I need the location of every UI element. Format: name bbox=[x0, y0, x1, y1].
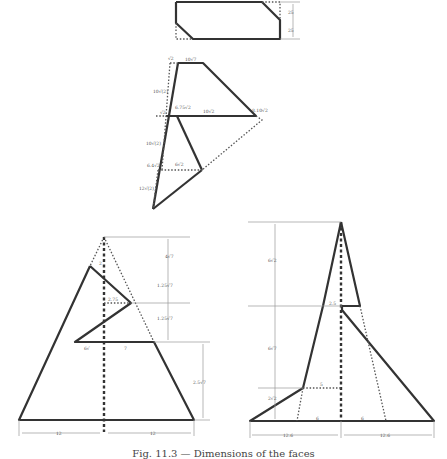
mid-lower-edge-label: 6√2 bbox=[175, 162, 184, 167]
lr-step-label: 5 bbox=[320, 382, 323, 387]
ll-bottom-right-label: 12 bbox=[150, 431, 156, 436]
lr-bottom-right-label: 12.6 bbox=[380, 433, 390, 438]
mid-left-upper-label: 10√(2) bbox=[153, 89, 168, 94]
mid-top-edge-label: 10√7 bbox=[185, 57, 197, 62]
ll-h3-label: 1.25√7 bbox=[157, 316, 173, 321]
ll-bottom-left-label: 12 bbox=[56, 431, 62, 436]
top-rectangle-face: 25 25 bbox=[176, 2, 300, 39]
ll-base-left-label: 6√ bbox=[84, 346, 90, 351]
mid-inner-label: 6.75√2 bbox=[175, 105, 191, 110]
mid-lower-pt-label: 6.4√2 bbox=[147, 163, 160, 168]
figure-caption: Fig. 11.3 — Dimensions of the faces bbox=[0, 448, 447, 459]
mid-edge-label: 10√2 bbox=[203, 109, 215, 114]
ll-apex-gap-label: 2 bbox=[99, 261, 102, 266]
lower-left-face: 2 4√7 1.25√7 2.75 1.25√7 6√ 7 2.5√7 12 1… bbox=[19, 237, 210, 436]
top-dim-lower: 25 bbox=[288, 28, 294, 33]
lr-h2-label: 6√7 bbox=[268, 346, 277, 351]
lr-base-right-inner-label: 6 bbox=[361, 416, 364, 421]
mid-left-bottom-label: 12√(2) bbox=[139, 186, 154, 191]
mid-right-pt-label: 8.10√2 bbox=[252, 108, 268, 113]
lr-base-left-inner-label: 6 bbox=[316, 416, 319, 421]
ll-base-right-label: 7 bbox=[124, 346, 127, 351]
lr-bottom-left-label: 12.6 bbox=[283, 433, 293, 438]
lr-notch-label: 2.5 bbox=[329, 301, 336, 306]
lower-right-face: 6√2 2.5 6√7 5 2√2 6 6 12.6 12.6 bbox=[248, 222, 434, 438]
middle-face: 10√7 √2 10√(2) 6.75√2 √2 10√2 8.10√2 10√… bbox=[139, 56, 268, 209]
ll-h4-label: 2.5√7 bbox=[193, 380, 206, 385]
ll-h2-label: 1.25√7 bbox=[157, 283, 173, 288]
lr-h1-label: 6√2 bbox=[268, 258, 277, 263]
mid-pt-label: √2 bbox=[160, 110, 166, 115]
top-dim-upper: 25 bbox=[288, 10, 294, 15]
lr-h3-label: 2√2 bbox=[268, 396, 277, 401]
mid-left-lower-label: 10√(2) bbox=[146, 141, 161, 146]
mid-top-left-pt-label: √2 bbox=[168, 56, 174, 61]
figure-drawings: 25 25 10√7 √2 10√(2) 6.75√2 √2 10√2 8.10… bbox=[0, 0, 447, 459]
ll-h1-label: 4√7 bbox=[165, 254, 174, 259]
ll-notch-label: 2.75 bbox=[108, 297, 118, 302]
